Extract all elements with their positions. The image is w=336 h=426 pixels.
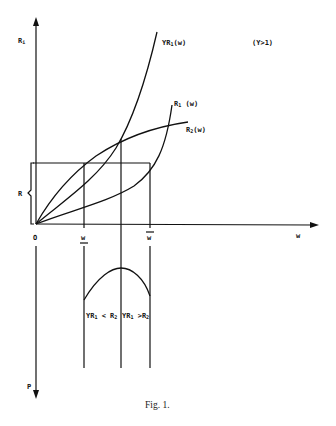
x-axis — [36, 224, 314, 225]
y-axis-label: Ri — [18, 37, 25, 45]
y-axis-arrow-icon — [33, 17, 39, 26]
region-right-label: YR1 >R2 — [122, 312, 149, 320]
x-axis-label: w — [296, 232, 301, 240]
figure-caption: Fig. 1. — [145, 400, 170, 410]
curve-r2-label: R2(w) — [186, 126, 206, 134]
region-left-label: YR1 < R2 — [86, 312, 117, 320]
figure-canvas: Ri R O w P w w YR1(w) R1 (w) R2(w) (Y>1)… — [0, 0, 336, 426]
w-upper-label: w — [147, 234, 152, 242]
w-lower-label: w — [81, 234, 86, 242]
p-axis-label: P — [27, 383, 31, 391]
curve-r1-label: R1 (w) — [174, 100, 198, 108]
p-arch-curve — [84, 268, 150, 300]
r-bracket — [28, 163, 34, 224]
x-axis-arrow-icon — [310, 222, 319, 228]
curve-yr1 — [36, 32, 157, 224]
bracket-label: R — [18, 190, 23, 198]
condition-label: (Y>1) — [252, 39, 273, 47]
p-axis-arrow-icon — [33, 390, 39, 399]
origin-label: O — [33, 234, 37, 242]
curve-yr1-label: YR1(w) — [162, 39, 186, 47]
